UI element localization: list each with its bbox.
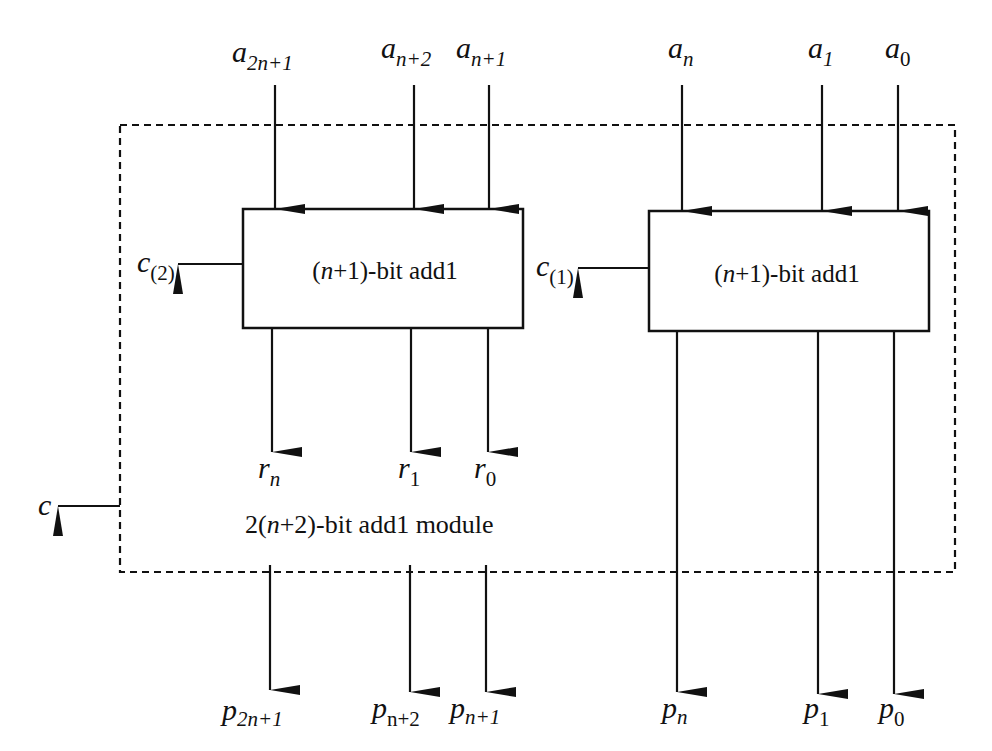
input-label-an: an xyxy=(668,31,694,71)
carry-label-c2: c(2) xyxy=(137,245,175,285)
intermediate-label-r0: r0 xyxy=(474,451,496,491)
right-adder-block: (n+1)-bit add1 xyxy=(649,211,929,331)
intermediate-label-rn: rn xyxy=(258,451,280,491)
left-adder-block: (n+1)-bit add1 xyxy=(243,209,523,328)
intermediate-label-r1: r1 xyxy=(398,451,420,491)
input-label-an1: an+1 xyxy=(456,31,506,71)
carry-out-label-c: c xyxy=(38,488,51,521)
output-label-pn2: pn+2 xyxy=(370,691,420,731)
adder-diagram: (n+1)-bit add1 (n+1)-bit add1 a2n+1 an+2… xyxy=(0,0,992,751)
carry-label-c1: c(1) xyxy=(536,249,574,289)
input-label-a0: a0 xyxy=(885,31,911,71)
carry-arrows xyxy=(58,264,649,506)
input-label-a2n1: a2n+1 xyxy=(232,35,293,75)
input-arrows xyxy=(275,85,898,211)
output-label-pn1: pn+1 xyxy=(448,691,500,729)
input-labels: a2n+1 an+2 an+1 an a1 a0 xyxy=(232,31,911,75)
output-label-p2n1: p2n+1 xyxy=(220,693,283,731)
output-label-p0: p0 xyxy=(877,691,905,731)
module-label: 2(n+2)-bit add1 module xyxy=(245,510,494,539)
right-adder-label: (n+1)-bit add1 xyxy=(714,260,859,288)
input-label-an2: an+2 xyxy=(381,31,432,71)
left-adder-label: (n+1)-bit add1 xyxy=(312,257,457,285)
output-label-p1: p1 xyxy=(802,691,830,731)
intermediate-arrows xyxy=(272,328,488,452)
input-label-a1: a1 xyxy=(808,31,834,71)
module-boundary xyxy=(120,125,955,572)
output-label-pn: pn xyxy=(660,691,688,729)
